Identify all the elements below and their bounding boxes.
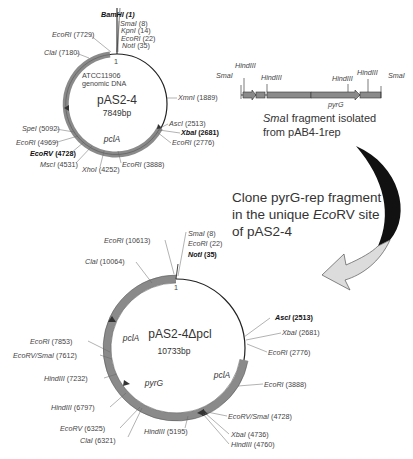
pyrG-arrow-icon [311, 90, 360, 100]
svg-text:SpeI (5092): SpeI (5092) [22, 124, 60, 133]
svg-text:ClaI (10064): ClaI (10064) [85, 257, 125, 266]
site-label: HindIII [332, 74, 353, 83]
gene-label-pclA: pclA [103, 134, 121, 144]
plasmid-map-pas2-4-delta-pcl: 1 pAS2-4Δpcl 10733bp pclA pyrG pclA SmaI… [13, 229, 320, 449]
plasmid2-origin-tick [176, 264, 178, 279]
origin-label: 1 [174, 283, 178, 292]
plasmid-map-pas2-4: 1 ATCC11906 genomic DNA pAS2-4 7849bp pc… [16, 8, 220, 174]
smaI-fragment: SmaI HindIII HindIII HindIII HindIII Sma… [216, 61, 405, 109]
cloning-instruction: Clone pyrG-rep fragment in the unique Ec… [232, 189, 381, 240]
insert-label: genomic DNA [82, 79, 127, 88]
svg-text:EcoRI (7729): EcoRI (7729) [52, 30, 94, 39]
svg-text:NotI (35): NotI (35) [122, 41, 150, 50]
svg-text:EcoRV/SmaI (7612): EcoRV/SmaI (7612) [13, 351, 77, 360]
gene-label-pclA: pclA [122, 333, 140, 343]
svg-text:AscI (2513): AscI (2513) [168, 119, 206, 128]
svg-text:EcoRI (3888): EcoRI (3888) [264, 380, 306, 389]
svg-text:NotI (35): NotI (35) [188, 250, 217, 259]
origin-label: 1 [114, 57, 118, 66]
svg-text:AscI (2513): AscI (2513) [274, 313, 314, 322]
plasmid2-name: pAS2-4Δpcl [148, 327, 211, 341]
site-label: SmaI [216, 71, 233, 80]
svg-text:XbaI (2681): XbaI (2681) [180, 128, 220, 137]
pyrG-marker-icon [123, 380, 130, 386]
svg-text:EcoRI (3888): EcoRI (3888) [122, 160, 164, 169]
svg-text:EcoRI (2776): EcoRI (2776) [268, 348, 310, 357]
site-label: HindIII [235, 61, 256, 70]
svg-text:EcoRI (4969): EcoRI (4969) [16, 138, 58, 147]
svg-text:ClaI (7180): ClaI (7180) [44, 48, 80, 57]
site-label: HindIII [357, 68, 378, 77]
gene-label-pclA: pclA [213, 370, 231, 380]
svg-text:SmaI (8): SmaI (8) [188, 229, 216, 238]
site-label: HindIII [261, 73, 282, 82]
plasmid1-size: 7849bp [103, 108, 132, 118]
svg-text:EcoRI (10613): EcoRI (10613) [104, 236, 150, 245]
svg-text:XmnI (1889): XmnI (1889) [177, 93, 218, 102]
site-label: SmaI [388, 71, 405, 80]
svg-text:EcoRV (6325): EcoRV (6325) [60, 424, 105, 433]
svg-text:HindIII (5195): HindIII (5195) [144, 427, 188, 436]
svg-text:EcoRI (2776): EcoRI (2776) [172, 138, 214, 147]
svg-text:HindIII (7232): HindIII (7232) [44, 374, 88, 383]
plasmid1-site-labels: BamHI (1) SmaI (8) KpnI (14) EcoRI (22) … [16, 10, 220, 174]
svg-text:HindIII (6797): HindIII (6797) [51, 403, 95, 412]
fragment-caption: SmaI fragment isolated from pAB4-1rep [263, 111, 376, 139]
svg-text:HindIII (4760): HindIII (4760) [231, 440, 275, 449]
svg-text:BamHI (1): BamHI (1) [101, 10, 135, 19]
svg-text:MscI (4531): MscI (4531) [40, 160, 78, 169]
svg-text:EcoRI (7853): EcoRI (7853) [30, 337, 72, 346]
svg-text:XbaI (2681): XbaI (2681) [281, 328, 320, 337]
svg-text:EcoRV/SmaI (4728): EcoRV/SmaI (4728) [228, 412, 292, 421]
svg-text:EcoRI (22): EcoRI (22) [188, 239, 222, 248]
svg-text:XbaI (4736): XbaI (4736) [230, 430, 269, 439]
fragment-arrow-icon [243, 90, 256, 100]
gene-label-pyrG: pyrG [327, 100, 344, 109]
svg-text:ClaI (6321): ClaI (6321) [80, 436, 116, 445]
svg-text:EcoRV (4728): EcoRV (4728) [30, 149, 77, 158]
plasmid2-size: 10733bp [157, 346, 190, 356]
plasmid1-name: pAS2-4 [97, 93, 137, 107]
gene-label-pyrG: pyrG [144, 378, 164, 388]
